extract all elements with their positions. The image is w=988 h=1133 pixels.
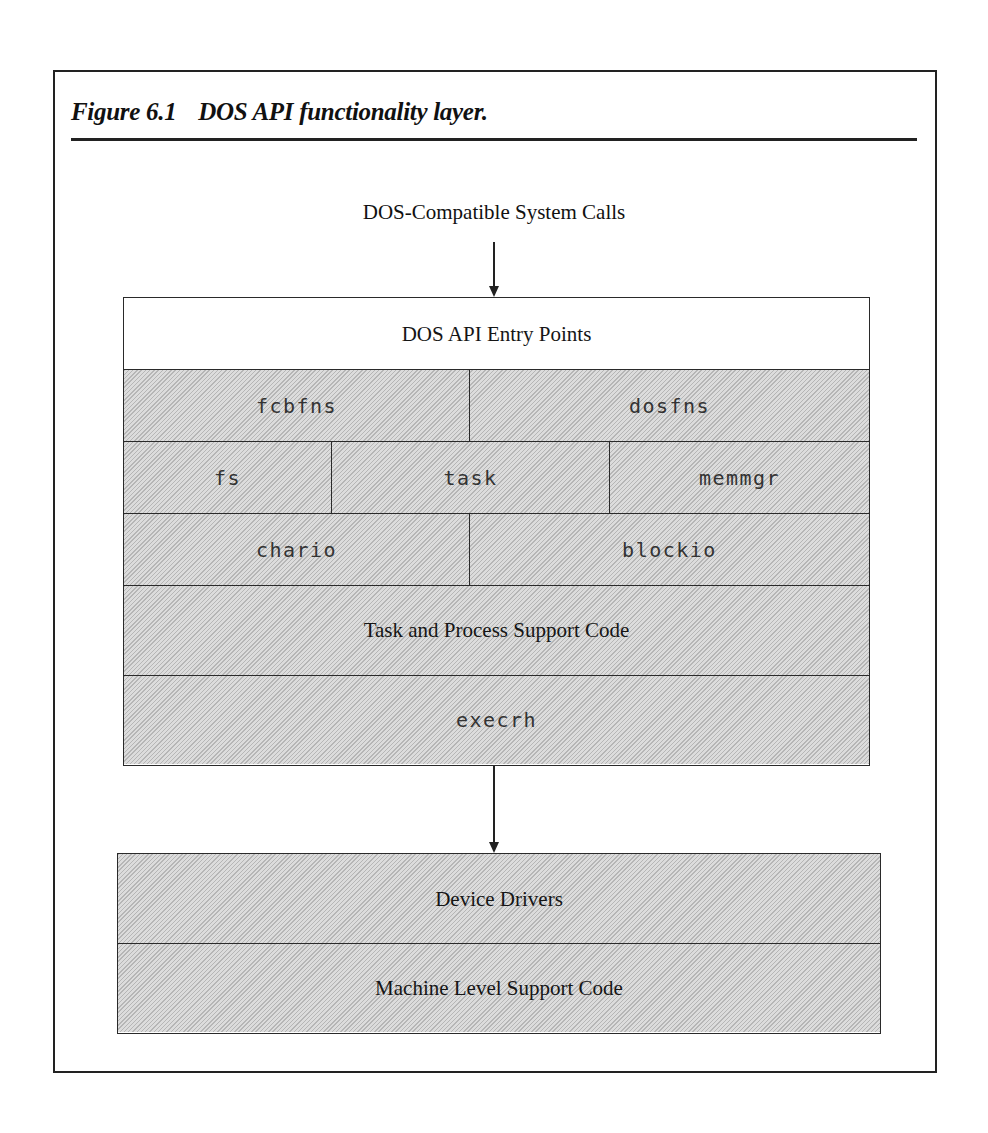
chario-block: chario (124, 514, 469, 585)
system-calls-label: DOS-Compatible System Calls (0, 200, 988, 225)
arrow-head-icon (489, 286, 499, 297)
row-entry-points: DOS API Entry Points (124, 298, 869, 370)
figure-caption: DOS API functionality layer. (198, 98, 487, 125)
row-fns: fcbfns dosfns (124, 369, 869, 441)
row-machine-level: Machine Level Support Code (118, 943, 880, 1032)
title-rule (71, 138, 917, 141)
device-drivers-block: Device Drivers (118, 854, 880, 944)
execrh-block: execrh (124, 676, 869, 764)
figure-number: Figure 6.1 (71, 98, 176, 125)
row-device-drivers: Device Drivers (118, 854, 880, 944)
task-block: task (331, 442, 609, 513)
row-execrh: execrh (124, 675, 869, 764)
fcbfns-block: fcbfns (124, 370, 469, 441)
hardware-stack: Device Drivers Machine Level Support Cod… (117, 853, 881, 1034)
dos-api-stack: DOS API Entry Points fcbfns dosfns fs ta… (123, 297, 870, 766)
row-core: fs task memmgr (124, 441, 869, 513)
machine-level-support-block: Machine Level Support Code (118, 944, 880, 1032)
task-process-support-block: Task and Process Support Code (124, 586, 869, 675)
dosfns-block: dosfns (469, 370, 869, 441)
memmgr-block: memmgr (609, 442, 869, 513)
fs-block: fs (124, 442, 331, 513)
figure-title: Figure 6.1DOS API functionality layer. (71, 98, 488, 126)
entry-points-block: DOS API Entry Points (124, 298, 869, 370)
arrow-head-icon (489, 842, 499, 853)
row-support: Task and Process Support Code (124, 585, 869, 675)
blockio-block: blockio (469, 514, 869, 585)
row-io: chario blockio (124, 513, 869, 585)
arrow-execrh-to-drivers (493, 766, 495, 843)
arrow-calls-to-entry (493, 242, 495, 287)
